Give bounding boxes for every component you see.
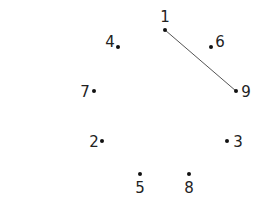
- dot-marker[interactable]: [234, 89, 238, 93]
- dot-marker[interactable]: [92, 89, 96, 93]
- dot-4[interactable]: 4: [105, 33, 120, 51]
- dot-number-label: 8: [184, 179, 194, 197]
- dot-9[interactable]: 9: [234, 83, 251, 101]
- dot-number-label: 4: [105, 33, 115, 51]
- dot-number-label: 1: [160, 8, 170, 26]
- dot-1[interactable]: 1: [160, 8, 170, 32]
- dot-7[interactable]: 7: [80, 83, 96, 101]
- dot-number-label: 3: [233, 133, 243, 151]
- dot-number-label: 6: [215, 33, 225, 51]
- dots-group: 123456789: [80, 8, 251, 197]
- dot-8[interactable]: 8: [184, 172, 194, 197]
- dot-6[interactable]: 6: [209, 33, 225, 51]
- dot-marker[interactable]: [163, 28, 167, 32]
- dot-marker[interactable]: [187, 172, 191, 176]
- dot-2[interactable]: 2: [89, 133, 104, 151]
- dot-3[interactable]: 3: [225, 133, 243, 151]
- dot-marker[interactable]: [116, 45, 120, 49]
- connecting-lines: [165, 30, 236, 91]
- dot-number-label: 2: [89, 133, 99, 151]
- dot-number-label: 5: [135, 179, 145, 197]
- dot-number-label: 7: [80, 83, 90, 101]
- dot-number-label: 9: [241, 83, 251, 101]
- line-1-to-9: [165, 30, 236, 91]
- dot-5[interactable]: 5: [135, 172, 145, 197]
- dot-marker[interactable]: [209, 45, 213, 49]
- dot-marker[interactable]: [100, 139, 104, 143]
- dot-puzzle-canvas: 123456789: [0, 0, 277, 205]
- dot-marker[interactable]: [138, 172, 142, 176]
- dot-marker[interactable]: [225, 139, 229, 143]
